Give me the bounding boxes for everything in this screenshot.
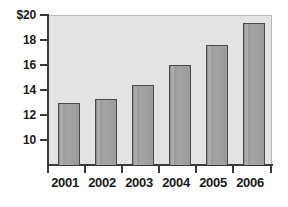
bar-highlight: [245, 24, 248, 166]
bar-highlight: [134, 86, 137, 165]
bar-highlight: [97, 100, 100, 165]
x-axis-label-2001: 2001: [45, 176, 85, 190]
bar-2002: [95, 99, 117, 165]
x-axis-label-2004: 2004: [156, 176, 196, 190]
bar-chart: $20 18 16 14 12 10 2001 2002 2003 2004 2…: [0, 0, 288, 207]
y-axis-tick: [40, 114, 48, 116]
y-axis-label-10: 10: [0, 134, 36, 146]
bar-2004: [169, 65, 191, 165]
bar-2006: [243, 23, 265, 166]
x-axis-tick: [232, 166, 234, 173]
bar-highlight: [60, 104, 63, 166]
x-axis-tick: [121, 166, 123, 173]
x-axis-tick: [84, 166, 86, 173]
y-axis-tick: [40, 64, 48, 66]
bar-highlight: [171, 66, 174, 165]
x-axis-line: [47, 164, 273, 166]
y-axis-tick: [40, 89, 48, 91]
y-axis-label-18: 18: [0, 34, 36, 46]
bar-2003: [132, 85, 154, 165]
y-axis-tick: [40, 139, 48, 141]
bar-2001: [58, 103, 80, 166]
y-axis-label-16: 16: [0, 59, 36, 71]
x-axis-tick: [270, 166, 272, 173]
y-axis-label-14: 14: [0, 84, 36, 96]
x-axis-label-2002: 2002: [82, 176, 122, 190]
y-axis-label-20: $20: [0, 9, 36, 21]
bar-highlight: [208, 46, 211, 165]
plot-area: [48, 15, 272, 165]
y-axis-tick: [40, 14, 48, 16]
x-axis-label-2003: 2003: [119, 176, 159, 190]
x-axis-label-2005: 2005: [193, 176, 233, 190]
y-axis-tick: [40, 39, 48, 41]
x-axis-tick: [47, 166, 49, 173]
bar-2005: [206, 45, 228, 165]
x-axis-label-2006: 2006: [230, 176, 270, 190]
y-axis-label-12: 12: [0, 109, 36, 121]
x-axis-tick: [158, 166, 160, 173]
x-axis-tick: [195, 166, 197, 173]
